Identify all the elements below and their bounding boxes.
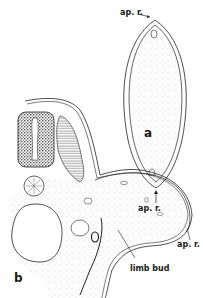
- panel-label-b: b: [14, 272, 23, 284]
- label-limb-bud: limb bud: [130, 265, 169, 273]
- panel-label-a: a: [144, 127, 152, 139]
- label-a-bottom-apical-ridge: ap. r.: [138, 205, 161, 213]
- label-b-apical-ridge: ap. r.: [177, 241, 200, 249]
- figure-drawing: [0, 0, 203, 298]
- label-a-top-apical-ridge: ap. r.: [120, 9, 143, 17]
